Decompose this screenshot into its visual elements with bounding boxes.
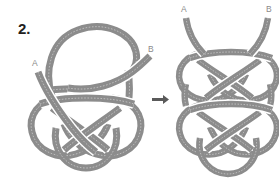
step-number: 2. — [18, 20, 31, 37]
knot-diagram-canvas: 2. A B A B — [0, 0, 279, 183]
right-label-a: A — [181, 4, 187, 14]
right-label-b: B — [266, 4, 272, 14]
knot-diagram-figure: 2. A B A B — [0, 0, 279, 183]
left-label-b: B — [148, 44, 154, 54]
left-label-a: A — [32, 58, 38, 68]
